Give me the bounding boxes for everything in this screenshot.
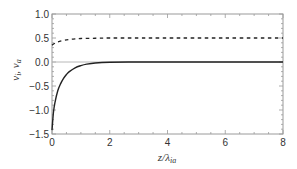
y-axis-label: vi, va [9,59,23,81]
plot-frame [52,14,283,134]
series-v-a [52,38,283,45]
x-tick-label: 0 [49,137,55,148]
y-tick-label: −1.0 [29,105,49,116]
y-tick-label: −0.5 [29,81,49,92]
data-series [52,38,283,130]
x-tick-label: 6 [222,137,228,148]
y-tick-label: 1.0 [35,9,49,20]
x-axis-label: z/λia [157,151,176,165]
x-tick-label: 4 [165,137,171,148]
x-tick-labels: 02468 [49,137,286,148]
line-chart: 02468 1.00.50.0−0.5−1.0−1.5 z/λia vi, va [0,0,297,169]
axis-ticks [52,14,283,134]
x-tick-label: 8 [280,137,286,148]
series-v-i [52,62,283,130]
y-tick-label: −1.5 [29,129,49,140]
y-tick-label: 0.0 [35,57,49,68]
y-tick-label: 0.5 [35,33,49,44]
x-tick-label: 2 [107,137,113,148]
y-tick-labels: 1.00.50.0−0.5−1.0−1.5 [29,9,49,140]
plot-border [52,14,283,134]
